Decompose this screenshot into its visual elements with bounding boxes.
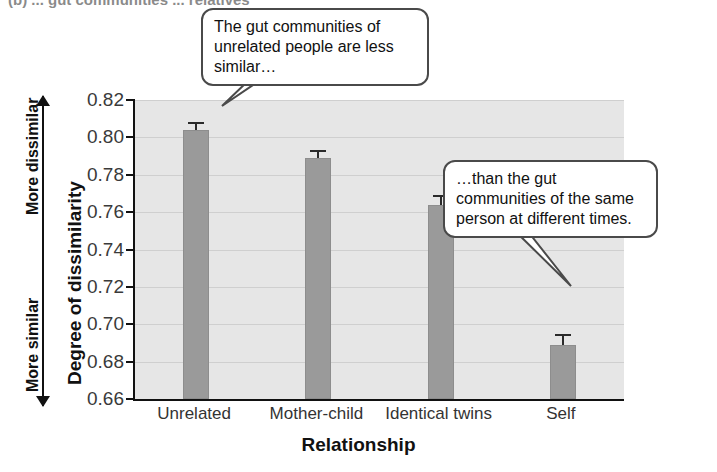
y-axis-tick-label: 0.82	[68, 89, 124, 111]
y-axis-tick-label: 0.66	[68, 388, 124, 410]
x-axis-tick-label: Mother-child	[270, 404, 364, 424]
y-axis-tick-label: 0.80	[68, 126, 124, 148]
callout-self: …than the gut communities of the same pe…	[443, 160, 658, 238]
x-axis-tick-label: Unrelated	[157, 404, 231, 424]
x-axis-tick-label: Identical twins	[385, 404, 492, 424]
y-axis-tick-label: 0.70	[68, 313, 124, 335]
callout-unrelated: The gut communities of unrelated people …	[201, 8, 429, 86]
y-axis-tick-label: 0.74	[68, 239, 124, 261]
x-axis-tick-label: Self	[546, 404, 575, 424]
y-axis-tick-label: 0.68	[68, 351, 124, 373]
figure-bar-chart: (b) ... gut communities ... relatives Mo…	[0, 0, 717, 472]
y-axis-tick-label: 0.72	[68, 276, 124, 298]
y-axis-tick-label: 0.78	[68, 164, 124, 186]
y-axis-tick-label: 0.76	[68, 201, 124, 223]
